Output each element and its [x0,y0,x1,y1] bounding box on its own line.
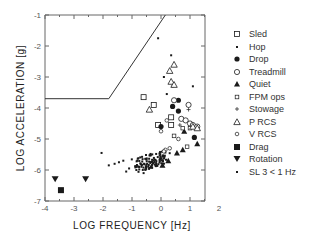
data-point-sl3 [108,164,110,166]
legend-label: Hop [249,41,266,54]
legend-item: Drop [229,53,296,66]
legend-label: V RCS [249,128,277,141]
data-point-drop [158,124,163,129]
data-point-p-rcs [171,61,177,67]
data-point-quiet [180,147,186,153]
data-point-sl3 [125,171,127,173]
dot-marker-icon [229,166,245,178]
data-point-sl3 [169,152,171,154]
legend-item: Quiet [229,78,296,91]
data-point-sl3 [161,160,163,162]
data-point-p-rcs [167,68,173,74]
x-axis-title: LOG FREQUENCY [Hz] [73,220,191,231]
data-point-sl3 [148,161,150,163]
legend-item: Sled [229,28,296,41]
svg-text:-1: -1 [128,204,136,213]
data-point-drop [176,109,181,114]
data-point-v-rcs [177,137,181,141]
data-point-sl3 [148,154,150,156]
data-point-hop [166,93,168,95]
data-point-sl3 [150,165,152,167]
data-point-hop [163,76,165,78]
data-point-rotation [52,176,59,182]
data-point-v-rcs [162,150,166,154]
data-point-sl3 [146,160,148,162]
data-point-sl3 [139,162,141,164]
data-point-sl3 [148,168,150,170]
data-point-sl3 [131,158,133,160]
data-point-sl3 [148,158,150,160]
data-point-fpm-ops [181,126,185,130]
plus-marker-icon [229,103,245,115]
legend-label: SL 3 < 1 Hz [249,166,296,179]
legend-item: FPM ops [229,91,296,104]
data-point-v-rcs [168,147,172,151]
legend-label: Rotation [249,153,283,166]
data-point-sled [169,123,174,128]
data-point-treadmill [186,102,191,107]
legend-label: Treadmill [249,66,286,79]
data-point-sl3 [136,160,138,162]
data-point-sl3 [138,171,140,173]
data-point-hop [192,85,194,87]
data-point-sl3 [164,155,166,157]
filled-inverted-triangle-marker-icon [229,153,245,165]
data-point-sl3 [118,161,120,163]
data-point-sl3 [128,167,130,169]
data-point-v-rcs [159,129,163,133]
data-point-drag [58,187,64,193]
svg-text:-3: -3 [34,73,42,82]
data-point-sl3 [159,159,161,161]
data-point-sl3 [145,165,147,167]
legend-item: SL 3 < 1 Hz [229,166,296,179]
legend-label: P RCS [249,116,276,129]
legend-label: Quiet [249,78,271,91]
legend-item: V RCS [229,128,296,141]
svg-text:-3: -3 [70,204,78,213]
data-point-sl3 [145,154,147,156]
limit-curve [45,15,165,99]
filled-square-marker-icon [229,141,245,153]
data-point-sled [169,115,174,120]
data-point-quiet [174,150,180,156]
data-point-sled [151,102,156,107]
legend-label: Stowage [249,103,284,116]
data-point-sl3 [145,164,147,166]
data-point-fpm-ops [185,145,189,149]
svg-text:-5: -5 [34,135,42,144]
data-point-sl3 [136,164,138,166]
data-point-sl3 [122,160,124,162]
legend-label: Sled [249,28,267,41]
data-point-rotation [82,176,89,182]
legend: SledHopDropTreadmillQuietFPM opsStowageP… [229,28,296,178]
data-point-sl3 [142,167,144,169]
svg-text:-7: -7 [34,197,42,206]
legend-label: FPM ops [249,91,285,104]
data-point-sl3 [147,166,149,168]
open-circle-marker-icon [229,66,245,78]
small-open-square-marker-icon [229,91,245,103]
data-point-sl3 [138,168,140,170]
data-point-sl3 [153,161,155,163]
open-square-marker-icon [229,28,245,40]
svg-text:2: 2 [217,204,222,213]
data-point-sl3 [142,158,144,160]
data-point-treadmill [171,98,176,103]
svg-text:-2: -2 [34,42,42,51]
data-point-sl3 [151,153,153,155]
small-open-circle-marker-icon [229,128,245,140]
data-point-sl3 [159,155,161,157]
axis-ticks: -4-3-2-1012-1-2-3-4-5-6-7 [34,11,222,213]
data-point-v-rcs [165,119,169,123]
svg-text:-1: -1 [34,11,42,20]
data-point-drop [170,104,175,109]
data-point-sl3 [159,151,161,153]
data-point-sl3 [141,161,143,163]
legend-label: Drop [249,53,269,66]
open-triangle-marker-icon [229,116,245,128]
data-point-sl3 [144,158,146,160]
data-point-drop [192,135,197,140]
data-point-quiet [194,141,200,147]
legend-label: Drag [249,141,269,154]
data-point-sl3 [155,159,157,161]
